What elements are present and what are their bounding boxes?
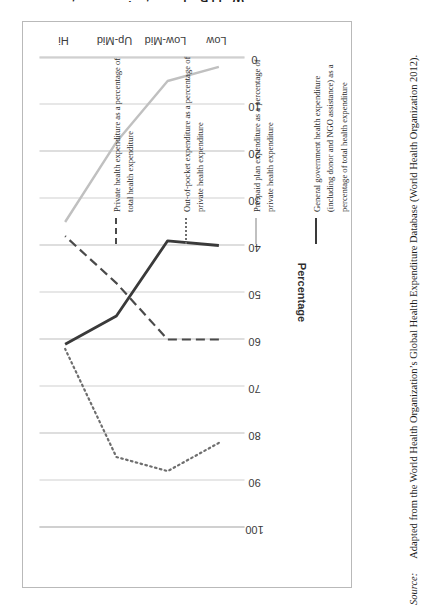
source-text: Adapted from the World Health Organizati… [408, 55, 419, 559]
legend-label-0: Private health expenditure as a percenta… [111, 48, 138, 212]
y-tick-label-60: 60 [236, 335, 272, 347]
source-label: Source: [408, 573, 419, 605]
legend-label-3: General government health expenditure (i… [311, 48, 351, 212]
y-tick-label-90: 90 [236, 476, 272, 488]
chart-legend: Private health expenditure as a percenta… [111, 48, 369, 244]
figure-frame: 1009080706050403020100 Percentage World … [22, 21, 352, 588]
y-tick-label-80: 80 [236, 429, 272, 441]
legend-swatch-solid-dark-icon [315, 218, 317, 244]
y-tick-label-70: 70 [236, 382, 272, 394]
legend-swatch-dotted-icon [185, 218, 187, 244]
x-category-label-hi: Hi [26, 34, 100, 46]
legend-swatch-dashed-icon [115, 218, 117, 244]
legend-swatch-solid-light-icon [255, 218, 257, 244]
series-line-3 [65, 240, 219, 343]
series-line-0 [65, 236, 219, 339]
series-line-1 [65, 348, 219, 470]
y-tick-label-100: 100 [236, 523, 272, 535]
legend-label-1: Out-of-pocket expenditure as a percentag… [181, 48, 208, 212]
y-tick-label-50: 50 [236, 288, 272, 300]
legend-label-2: Pre-paid plan expenditure as a percentag… [251, 48, 278, 212]
source-caption: Source: Adapted from the World Health Or… [402, 0, 424, 609]
